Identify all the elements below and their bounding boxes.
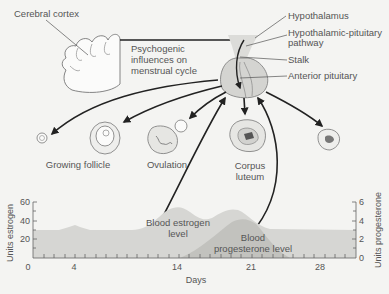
x-tick-4: 4 bbox=[71, 262, 76, 272]
label-cerebral-cortex: Cerebral cortex bbox=[14, 8, 79, 19]
arrow-to-corpus-luteum bbox=[244, 98, 245, 114]
label-psychogenic: influences on bbox=[131, 54, 187, 65]
x-tick-14: 14 bbox=[172, 262, 182, 272]
cerebral-cortex-illustration bbox=[62, 34, 120, 92]
hypothalamus-leader bbox=[255, 16, 286, 38]
y-tick-right-4: 4 bbox=[359, 216, 364, 226]
label-psychogenic: menstrual cycle bbox=[131, 65, 197, 76]
estrogen-area bbox=[33, 207, 356, 258]
y-tick-40: 40 bbox=[20, 216, 30, 226]
ovulation-icon bbox=[148, 120, 187, 154]
progesterone-annotation: Blood bbox=[241, 232, 265, 243]
y-axis-label-right: Units progesterone bbox=[373, 192, 383, 268]
hormone-chart: 60 40 20 Units estrogen 6 4 2 0 Units pr… bbox=[5, 192, 383, 285]
y-tick-60: 60 bbox=[20, 197, 30, 207]
y-tick-right-0: 0 bbox=[359, 253, 364, 263]
x-tick-21: 21 bbox=[246, 262, 256, 272]
corpus-luteum-icon bbox=[230, 120, 266, 152]
estrogen-annotation: level bbox=[168, 228, 188, 239]
x-tick-28: 28 bbox=[315, 262, 325, 272]
regressing-corpus-icon bbox=[318, 129, 340, 150]
label-corpus-luteum: luteum bbox=[236, 171, 265, 182]
growing-follicle-icon bbox=[90, 122, 120, 154]
label-hypothalamus: Hypothalamus bbox=[288, 10, 349, 21]
estrogen-annotation: Blood estrogen bbox=[146, 217, 210, 228]
label-stalk: Stalk bbox=[288, 54, 309, 65]
label-ovulation: Ovulation bbox=[147, 159, 187, 170]
label-anterior-pituitary: Anterior pituitary bbox=[288, 70, 357, 81]
progesterone-annotation: progesterone level bbox=[214, 243, 292, 254]
y-tick-right-6: 6 bbox=[359, 197, 364, 207]
menstrual-cycle-diagram: Cerebral cortex Psychogenic influences o… bbox=[0, 0, 389, 294]
arrow-to-late-corpus bbox=[266, 92, 322, 126]
label-growing-follicle: Growing follicle bbox=[46, 159, 110, 170]
label-corpus-luteum: Corpus bbox=[235, 160, 266, 171]
label-psychogenic: Psychogenic bbox=[131, 43, 185, 54]
y-axis-label-left: Units estrogen bbox=[5, 204, 15, 262]
y-tick-right-2: 2 bbox=[359, 234, 364, 244]
x-tick-0: 0 bbox=[25, 262, 30, 272]
pituitary-illustration bbox=[221, 35, 268, 98]
small-follicle-icon bbox=[37, 133, 47, 143]
label-hp-pathway: pathway bbox=[288, 37, 324, 48]
y-tick-20: 20 bbox=[20, 234, 30, 244]
x-axis-label: Days bbox=[186, 275, 207, 285]
